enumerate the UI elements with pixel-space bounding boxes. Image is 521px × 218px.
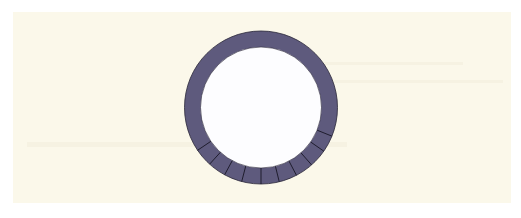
segmented-ring-diagram	[0, 0, 521, 218]
ring-inner-hole	[201, 47, 322, 168]
ring	[185, 31, 338, 184]
